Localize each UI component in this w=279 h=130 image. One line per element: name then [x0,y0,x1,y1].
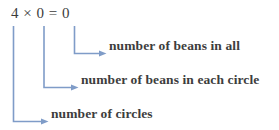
arrowhead-multiplicand-icon [41,119,49,125]
callout-label-product: number of beans in all [109,38,240,54]
connector-line-multiplicand [14,26,43,122]
arrowhead-multiplier-icon [71,85,79,91]
connector-line-product [75,26,101,54]
connector-line-multiplier [44,26,72,88]
callout-label-multiplier: number of beans in each circle [81,72,259,88]
annotated-equation-figure: 4 × 0 = 0 number of beans in all number … [0,0,279,130]
callout-label-multiplicand: number of circles [51,106,153,122]
arrowhead-product-icon [99,51,107,57]
